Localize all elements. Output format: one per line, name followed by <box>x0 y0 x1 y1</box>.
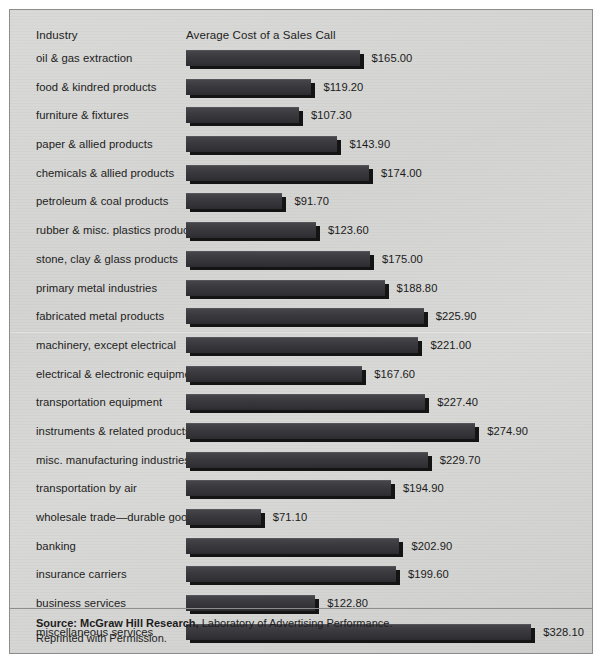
source-publisher: Source: McGraw Hill Research, <box>36 617 199 629</box>
bar-face <box>186 136 337 152</box>
bar-track: $119.20 <box>186 79 315 101</box>
bar <box>186 566 400 585</box>
header-industry: Industry <box>36 29 78 41</box>
bar-value-label: $119.20 <box>323 81 363 93</box>
bar-row: rubber & misc. plastics products$123.60 <box>10 222 592 251</box>
bar-face <box>186 107 299 123</box>
source-footnote: Source: McGraw Hill Research, Laboratory… <box>10 608 592 653</box>
bar <box>186 251 374 270</box>
bar-value-label: $227.40 <box>437 396 478 408</box>
bar <box>186 337 422 356</box>
bar <box>186 79 315 98</box>
header-average-cost: Average Cost of a Sales Call <box>186 29 336 41</box>
bar-face <box>186 394 425 410</box>
bar-value-label: $91.70 <box>294 195 329 207</box>
horizontal-bar-chart: Industry Average Cost of a Sales Call oi… <box>10 10 592 610</box>
bar-track: $143.90 <box>186 136 341 158</box>
bar-value-label: $71.10 <box>273 511 308 523</box>
bar-category-label: stone, clay & glass products <box>36 253 178 265</box>
bar <box>186 222 320 241</box>
bar <box>186 193 286 212</box>
sales-call-cost-figure: Industry Average Cost of a Sales Call oi… <box>0 0 602 663</box>
bar-row: machinery, except electrical$221.00 <box>10 337 592 366</box>
bar-value-label: $221.00 <box>430 339 471 351</box>
bar-category-label: transportation equipment <box>36 396 162 408</box>
bar-category-label: paper & allied products <box>36 138 153 150</box>
bar-category-label: machinery, except electrical <box>36 339 176 351</box>
bar-face <box>186 251 370 267</box>
bar-row: petroleum & coal products$91.70 <box>10 193 592 222</box>
bar-category-label: electrical & electronic equipment <box>36 368 200 380</box>
chart-panel: Industry Average Cost of a Sales Call oi… <box>9 9 593 654</box>
bar-face <box>186 222 316 238</box>
source-detail: Laboratory of Advertising Performance. <box>199 617 393 629</box>
bar-track: $71.10 <box>186 509 265 531</box>
bar-row: instruments & related products$274.90 <box>10 423 592 452</box>
bar-rows: oil & gas extraction$165.00food & kindre… <box>10 50 592 652</box>
bar-track: $167.60 <box>186 366 366 388</box>
bar-value-label: $274.90 <box>487 425 528 437</box>
bar-track: $188.80 <box>186 280 389 302</box>
bar-track: $107.30 <box>186 107 303 129</box>
bar-track: $199.60 <box>186 566 400 588</box>
bar-category-label: primary metal industries <box>36 282 157 294</box>
column-headers: Industry Average Cost of a Sales Call <box>10 29 592 45</box>
bar-value-label: $143.90 <box>349 138 390 150</box>
bar-face <box>186 165 369 181</box>
bar-row: banking$202.90 <box>10 538 592 567</box>
bar-face <box>186 509 261 525</box>
source-line-2: Reprinted with Permission. <box>36 632 167 644</box>
bar-track: $202.90 <box>186 538 403 560</box>
bar-face <box>186 79 311 95</box>
bar-track: $194.90 <box>186 480 395 502</box>
bar-value-label: $165.00 <box>372 52 413 64</box>
bar-row: insurance carriers$199.60 <box>10 566 592 595</box>
bar-category-label: misc. manufacturing industries <box>36 454 190 466</box>
bar-track: $123.60 <box>186 222 320 244</box>
bar-value-label: $199.60 <box>408 568 449 580</box>
bar-row: fabricated metal products$225.90 <box>10 308 592 337</box>
bar-category-label: rubber & misc. plastics products <box>36 224 198 236</box>
bar-face <box>186 193 282 209</box>
bar-row: paper & allied products$143.90 <box>10 136 592 165</box>
bar-category-label: furniture & fixtures <box>36 109 129 121</box>
bar-face <box>186 366 362 382</box>
bar-row: misc. manufacturing industries$229.70 <box>10 452 592 481</box>
bar <box>186 423 479 442</box>
bar-track: $91.70 <box>186 193 286 215</box>
bar <box>186 308 428 327</box>
bar-row: primary metal industries$188.80 <box>10 280 592 309</box>
bar-track: $225.90 <box>186 308 428 330</box>
bar-track: $229.70 <box>186 452 432 474</box>
bar <box>186 538 403 557</box>
bar-row: transportation by air$194.90 <box>10 480 592 509</box>
bar-value-label: $229.70 <box>440 454 481 466</box>
bar <box>186 107 303 126</box>
bar-value-label: $202.90 <box>411 540 452 552</box>
bar-track: $165.00 <box>186 50 364 72</box>
bar-value-label: $194.90 <box>403 482 444 494</box>
bar-category-label: oil & gas extraction <box>36 52 132 64</box>
bar-track: $175.00 <box>186 251 374 273</box>
bar <box>186 480 395 499</box>
bar <box>186 394 429 413</box>
bar-category-label: instruments & related products <box>36 425 191 437</box>
bar-row: transportation equipment$227.40 <box>10 394 592 423</box>
bar-track: $174.00 <box>186 165 373 187</box>
bar <box>186 509 265 528</box>
bar-value-label: $175.00 <box>382 253 423 265</box>
bar-track: $274.90 <box>186 423 479 445</box>
bar-value-label: $123.60 <box>328 224 369 236</box>
bar-value-label: $167.60 <box>374 368 415 380</box>
bar-face <box>186 538 399 554</box>
bar-row: wholesale trade—durable goods$71.10 <box>10 509 592 538</box>
bar-track: $227.40 <box>186 394 429 416</box>
bar-face <box>186 280 385 296</box>
bar-category-label: insurance carriers <box>36 568 127 580</box>
bar-row: stone, clay & glass products$175.00 <box>10 251 592 280</box>
bar-track: $221.00 <box>186 337 422 359</box>
bar-row: electrical & electronic equipment$167.60 <box>10 366 592 395</box>
bar-category-label: food & kindred products <box>36 81 156 93</box>
bar-category-label: petroleum & coal products <box>36 195 169 207</box>
bar <box>186 136 341 155</box>
